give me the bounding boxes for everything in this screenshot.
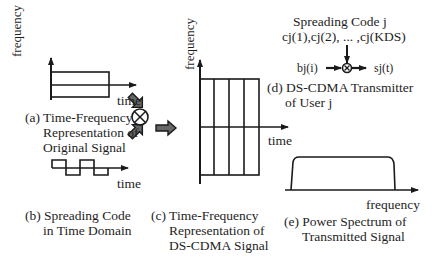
panel-d-caption-1: (d) DS-CDMA Transmitter [267,80,413,95]
panel-c-caption-2: Representation of [169,223,265,238]
multiply-icon [132,109,148,125]
panel-c-y-label: frequency [182,18,197,70]
panel-c-plot [200,60,288,184]
panel-a-caption-3: Original Signal [43,140,126,155]
panel-c-caption-3: DS-CDMA Signal [169,238,268,253]
arrow-to-c [156,121,176,135]
panel-d-code-sequence: cj(1),cj(2), ... ,cj(KDS) [282,29,406,44]
panel-e-caption-1: (e) Power Spectrum of [284,214,407,229]
panel-d-code-title: Spreading Code j [293,14,387,29]
panel-b-caption-1: (b) Spreading Code [25,208,131,223]
panel-e-spectrum [285,157,418,190]
panel-e-caption-2: Transmitted Signal [302,229,405,244]
panel-b-waveform [52,160,128,175]
panel-e-x-label: frequency [366,197,420,212]
panel-b-x-label: time [117,176,141,191]
panel-d-caption-2: of User j [285,95,332,110]
panel-d-output-label: sj(t) [374,61,393,76]
panel-d-input-label: bj(i) [297,61,318,76]
panel-a-x-label: time [117,93,141,108]
panel-d-transmitter [326,45,366,73]
panel-c-x-label: time [268,133,292,148]
panel-a-caption-1: (a) Time-Frequency [25,110,133,125]
panel-a-caption-2: Representation of [43,125,139,140]
panel-b-caption-2: in Time Domain [43,223,132,238]
panel-a-y-label: frequency [9,5,24,57]
panel-c-caption-1: (c) Time-Frequency [151,208,259,223]
